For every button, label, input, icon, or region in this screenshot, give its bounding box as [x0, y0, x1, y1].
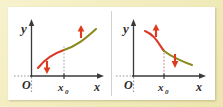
curve-segment-concave-up [145, 31, 164, 51]
down-arrow-left [44, 61, 51, 74]
curve-segment-concave-down [164, 51, 192, 65]
curve-segment-concave-down [38, 50, 64, 68]
x0-subscript: 0 [65, 88, 69, 96]
decreasing-inflection-panel: y x O x 0 [112, 7, 215, 100]
x0-subscript: 0 [165, 88, 169, 96]
left-diagram: y x O x 0 [8, 7, 111, 100]
right-diagram: y x O x 0 [112, 7, 215, 100]
x-axis-arrowhead [97, 73, 104, 78]
up-arrow-left [153, 24, 160, 37]
x-axis-label: x [93, 80, 100, 94]
origin-label: O [22, 78, 31, 92]
increasing-inflection-panel: y x O x 0 [8, 7, 111, 100]
y-axis-arrowhead [131, 19, 136, 26]
x-axis-arrowhead [199, 73, 206, 78]
origin-label: O [124, 78, 133, 92]
x0-label: x [157, 81, 164, 93]
x0-label: x [57, 81, 64, 93]
figure-card: y x O x 0 [8, 7, 215, 100]
y-axis-arrowhead [29, 19, 34, 26]
y-axis-label: y [19, 21, 27, 36]
up-arrow-right [78, 25, 85, 38]
y-axis-label: y [121, 21, 129, 36]
x-axis-label: x [195, 80, 202, 94]
